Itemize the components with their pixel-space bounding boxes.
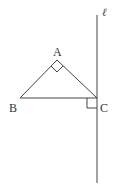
triangle-abc: [20, 60, 97, 98]
vertex-label-b: B: [9, 101, 17, 115]
line-l-label: ℓ: [102, 6, 107, 19]
vertex-label-c: C: [100, 101, 108, 115]
geometry-diagram: ℓ A B C: [0, 0, 115, 188]
right-angle-marker-a: [51, 66, 63, 72]
right-angle-marker-c: [87, 98, 97, 108]
vertex-label-a: A: [53, 45, 62, 59]
